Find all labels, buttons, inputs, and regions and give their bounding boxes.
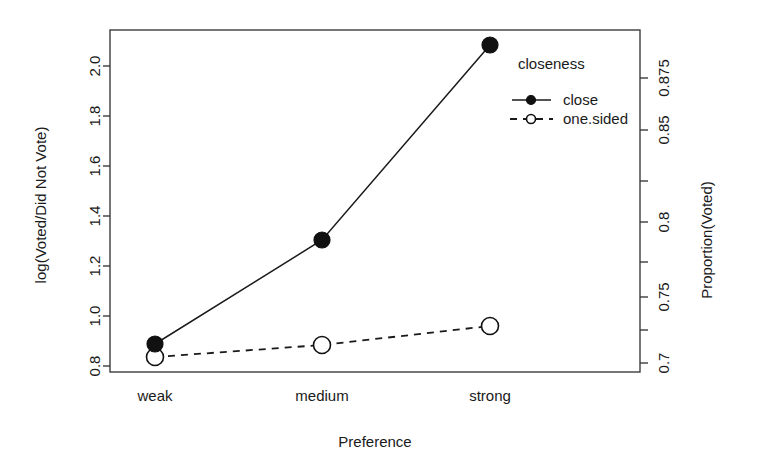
left-tick-label: 1.4 bbox=[86, 206, 103, 227]
legend-label-close: close bbox=[563, 91, 598, 108]
left-tick-label: 1.6 bbox=[86, 156, 103, 177]
data-point-one-sided-strong bbox=[482, 318, 499, 335]
right-axis-tick-labels: 0.875 0.85 0.8 0.75 0.7 bbox=[655, 59, 672, 373]
left-tick-label: 1.0 bbox=[86, 306, 103, 327]
legend-item-close[interactable]: close bbox=[512, 91, 598, 108]
right-tick-label: 0.85 bbox=[655, 115, 672, 144]
bottom-axis-title: Preference bbox=[338, 433, 411, 450]
interaction-plot: 2.0 1.8 1.6 1.4 1.2 1.0 0.8 log(Voted/Di… bbox=[0, 0, 760, 475]
right-tick-label: 0.75 bbox=[655, 282, 672, 311]
chart-canvas: 2.0 1.8 1.6 1.4 1.2 1.0 0.8 log(Voted/Di… bbox=[0, 0, 760, 475]
series-markers-close bbox=[147, 37, 498, 352]
right-tick-label: 0.875 bbox=[655, 59, 672, 97]
data-point-close-medium bbox=[314, 232, 330, 248]
x-tick-label-medium: medium bbox=[295, 387, 348, 404]
legend-label-one-sided: one.sided bbox=[563, 110, 628, 127]
series-line-close bbox=[155, 45, 490, 344]
right-axis-title: Proportion(Voted) bbox=[698, 181, 715, 299]
right-axis-ticks bbox=[640, 78, 648, 363]
left-tick-label: 0.8 bbox=[86, 356, 103, 377]
legend-key-open-circle-icon bbox=[527, 115, 536, 124]
right-tick-label: 0.8 bbox=[655, 212, 672, 233]
left-axis-ticks bbox=[103, 66, 110, 366]
data-point-close-strong bbox=[482, 37, 498, 53]
legend-key-filled-circle-icon bbox=[527, 96, 536, 105]
data-point-one-sided-medium bbox=[314, 337, 331, 354]
legend-title: closeness bbox=[518, 55, 585, 72]
left-tick-label: 1.2 bbox=[86, 256, 103, 277]
left-tick-label: 2.0 bbox=[86, 56, 103, 77]
data-point-close-weak bbox=[147, 336, 163, 352]
legend: closeness close one.sided bbox=[510, 55, 628, 127]
left-axis-tick-labels: 2.0 1.8 1.6 1.4 1.2 1.0 0.8 bbox=[86, 56, 103, 377]
series-markers-one-sided bbox=[147, 318, 499, 366]
x-tick-label-strong: strong bbox=[469, 387, 511, 404]
left-axis-title: log(Voted/Did Not Vote) bbox=[32, 127, 49, 284]
right-tick-label: 0.7 bbox=[655, 353, 672, 374]
bottom-axis-tick-labels: weak medium strong bbox=[136, 387, 510, 404]
plot-frame bbox=[110, 30, 640, 372]
x-tick-label-weak: weak bbox=[136, 387, 173, 404]
legend-item-one-sided[interactable]: one.sided bbox=[510, 110, 628, 127]
left-tick-label: 1.8 bbox=[86, 106, 103, 127]
